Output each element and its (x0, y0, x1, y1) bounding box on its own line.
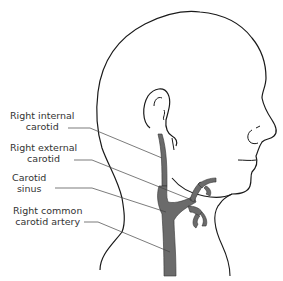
label-carotid-sinus: Carotid sinus (12, 172, 46, 194)
leader-internal (68, 128, 162, 158)
front-neck-outline (215, 194, 232, 276)
label-right-common-carotid-artery: Right common carotid artery (13, 205, 82, 227)
nostril-outline (248, 130, 258, 144)
label-line: Right common (13, 205, 82, 216)
label-line: sinus (12, 183, 46, 194)
label-line: Carotid (12, 172, 46, 183)
carotid-arteries (158, 134, 216, 276)
label-right-internal-carotid: Right internal carotid (10, 110, 75, 132)
head-illustration (0, 0, 283, 281)
label-line: Right internal (10, 110, 75, 121)
label-line: carotid (10, 153, 77, 164)
label-right-external-carotid: Right external carotid (10, 142, 77, 164)
label-line: Right external (10, 142, 77, 153)
label-line: carotid artery (13, 216, 82, 227)
leader-common (84, 222, 170, 252)
carotid-diagram: Right internal carotid Right external ca… (0, 0, 283, 281)
label-line: carotid (10, 121, 75, 132)
